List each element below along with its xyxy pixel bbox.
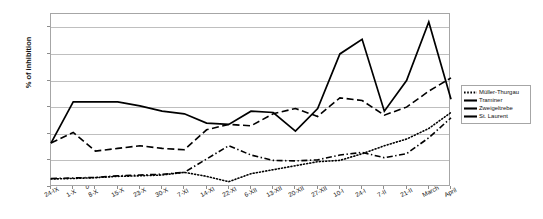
legend-swatch-icon	[464, 89, 477, 96]
legend-item[interactable]: Müller-Thurgau	[464, 89, 528, 96]
legend-item[interactable]: Traminer	[464, 97, 528, 104]
x-axis-tick-label: 7-XI	[176, 187, 189, 199]
legend-item[interactable]: Zweigeltrebe	[464, 105, 528, 112]
x-axis-tick-label: 24-IX	[43, 185, 60, 198]
series-line	[51, 112, 451, 181]
x-axis-tick-label: 15-X	[110, 186, 125, 198]
x-axis-tick-label: 23-X	[132, 186, 147, 198]
legend-label: Zweigeltrebe	[479, 105, 513, 112]
x-axis-tick-label: 7-II	[376, 188, 387, 198]
plot-area	[50, 13, 450, 186]
series-line	[51, 78, 451, 151]
legend-item[interactable]: St. Laurent	[464, 113, 528, 120]
x-axis-tick-label: 6-XII	[243, 186, 258, 198]
series-line	[51, 118, 451, 179]
x-axis-tick-label: 24-I	[354, 187, 367, 198]
legend-label: Müller-Thurgau	[479, 89, 519, 96]
x-axis-tick-label: 30-X	[154, 186, 169, 198]
legend-label: Traminer	[479, 97, 502, 104]
series-lines	[51, 14, 451, 187]
x-axis-tick-label: April	[443, 186, 457, 198]
chart-legend: Müller-ThurgauTraminerZweigeltrebeSt. La…	[461, 85, 531, 124]
legend-swatch-icon	[464, 113, 477, 120]
x-axis-tick-label: 21-II	[399, 186, 413, 198]
line-chart: % of inhibition 0102030405060 24-IX1-X8-…	[0, 0, 543, 219]
legend-label: St. Laurent	[479, 113, 508, 120]
x-axis-tick-label: 10-I	[332, 187, 345, 198]
legend-swatch-icon	[464, 105, 477, 112]
x-axis-tick-label: 8-X	[87, 187, 99, 198]
series-line	[51, 22, 451, 143]
y-axis-title: % of inhibition	[24, 13, 33, 113]
legend-swatch-icon	[464, 97, 477, 104]
